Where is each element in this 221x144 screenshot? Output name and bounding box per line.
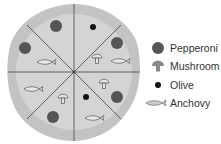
pepperoni-icon xyxy=(19,42,31,54)
mushroom-icon xyxy=(148,59,168,73)
olive-icon xyxy=(148,78,168,92)
legend-item-olive: Olive xyxy=(148,77,194,93)
olive-icon xyxy=(83,94,89,100)
legend-label: Pepperoni xyxy=(170,42,218,54)
pepperoni-icon xyxy=(111,91,123,103)
olive-icon xyxy=(90,24,96,30)
legend-label: Mushroom xyxy=(170,60,220,72)
anchovy-icon xyxy=(144,96,168,110)
legend-item-anchovy: Anchovy xyxy=(144,95,210,111)
legend-label: Anchovy xyxy=(170,97,210,109)
pepperoni-icon xyxy=(148,41,168,55)
legend-item-pepperoni: Pepperoni xyxy=(148,40,218,56)
pepperoni-icon xyxy=(50,20,62,32)
pepperoni-icon xyxy=(47,111,59,123)
pepperoni-icon xyxy=(111,37,123,49)
legend-label: Olive xyxy=(170,79,194,91)
pizza-diagram xyxy=(0,0,145,144)
legend-item-mushroom: Mushroom xyxy=(148,58,220,74)
